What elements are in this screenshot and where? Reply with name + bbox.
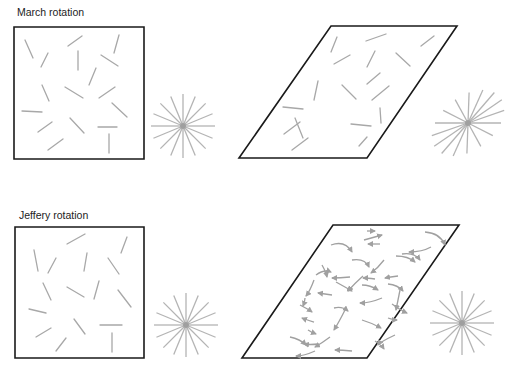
fiber-segment: [41, 53, 48, 67]
jeffery-square-outline: [15, 227, 144, 358]
rotation-arrow: [360, 298, 382, 303]
fiber-segment: [351, 124, 371, 126]
rotation-arrow: [308, 330, 316, 334]
fiber-segment: [25, 40, 33, 58]
orientation-stars: [151, 90, 504, 357]
fiber-segment: [421, 36, 434, 46]
rotation-arrow: [334, 307, 348, 311]
rotation-arrow: [332, 277, 350, 278]
fiber-segment: [94, 281, 99, 299]
fiber-segment: [22, 111, 42, 112]
fiber-segment: [366, 34, 386, 41]
fiber-segment: [292, 138, 308, 150]
rotation-arrow: [364, 235, 382, 240]
fiber-segment: [112, 103, 127, 117]
fiber-segment: [118, 290, 131, 307]
rotation-arrow: [378, 335, 395, 345]
rotation-arrow: [300, 305, 312, 312]
fiber-segment: [36, 328, 51, 337]
rotation-arrow: [335, 350, 352, 351]
rotation-arrow: [296, 351, 315, 356]
rotation-arrow: [388, 318, 397, 320]
jeffery-parallelogram-outline: [242, 225, 459, 358]
fiber-segment: [74, 319, 85, 334]
fiber-segment: [89, 68, 96, 85]
fiber-segment: [43, 283, 51, 300]
fiber-segment: [65, 87, 83, 98]
rotation-arrow: [316, 271, 331, 275]
rotation-arrow: [352, 260, 369, 267]
fiber-segment: [101, 55, 118, 66]
fiber-segment: [380, 108, 381, 123]
rotation-arrow: [385, 276, 398, 278]
fiber-segment: [372, 86, 389, 100]
star-jeffery-square-icon: [154, 293, 218, 357]
fiber-segment: [367, 51, 375, 67]
rotation-arrow: [318, 293, 332, 295]
fiber-segment: [34, 250, 38, 271]
fiber-segment: [331, 37, 337, 52]
rotation-arrow: [303, 298, 305, 306]
fiber-segment: [56, 338, 66, 351]
rotation-arrow: [302, 318, 314, 322]
fiber-segment: [367, 73, 380, 84]
fiber-segment: [38, 122, 52, 132]
fiber-segment: [295, 118, 303, 138]
fiber-segment: [48, 139, 63, 150]
fiber-segment: [121, 237, 127, 253]
rotation-arrow: [306, 280, 314, 296]
march-sheared-frame: [239, 26, 457, 158]
fiber-segment: [67, 234, 85, 244]
fiber-segment: [29, 309, 46, 313]
rotation-arrow: [290, 337, 306, 345]
fiber-segment: [42, 85, 49, 101]
rotation-arrow: [348, 276, 363, 291]
rotation-arrow: [362, 320, 381, 328]
rotation-arrow: [396, 256, 415, 262]
rotation-arrow: [334, 310, 345, 330]
fiber-segment: [67, 287, 84, 297]
fiber-segment: [99, 87, 115, 98]
jeffery-square-frame: [15, 227, 144, 358]
fiber-segment: [70, 118, 84, 133]
rotation-arrow: [409, 247, 431, 252]
rotation-arrow: [315, 337, 330, 347]
star-jeffery-sheared-icon: [430, 291, 494, 355]
rotation-arrow: [425, 232, 445, 245]
fiber-segment: [359, 137, 367, 146]
fiber-segment: [342, 85, 356, 99]
fiber-segment: [283, 107, 303, 109]
star-march-square-icon: [151, 94, 215, 158]
fiber-segment: [396, 53, 410, 66]
rotation-arrow: [331, 244, 352, 252]
rotation-arrow: [371, 260, 384, 273]
rotation-arrow: [363, 278, 375, 279]
rotation-arrow: [362, 285, 378, 290]
rotation-arrow: [304, 344, 318, 345]
fiber-segment: [48, 258, 56, 273]
fiber-segment: [334, 55, 350, 64]
march-parallelogram-outline: [239, 26, 457, 158]
fiber-segment: [84, 253, 87, 271]
march-square-outline: [14, 27, 144, 159]
fiber-segment: [314, 81, 318, 100]
fiber-segment: [114, 35, 119, 53]
rotation-arrow: [336, 282, 352, 291]
fiber-segment: [68, 36, 82, 46]
rotation-arrow: [388, 284, 403, 291]
jeffery-sheared-frame: [242, 225, 459, 358]
march-square-frame: [14, 27, 144, 159]
rotation-diagram: [0, 0, 518, 372]
fiber-segment: [108, 258, 119, 274]
star-march-sheared-icon: [432, 90, 504, 156]
